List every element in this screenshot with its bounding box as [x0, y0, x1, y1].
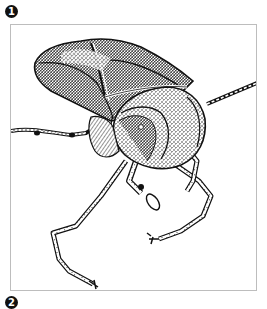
- figure-number-1: 1: [8, 6, 15, 17]
- rear-leg-left: [53, 161, 126, 289]
- figure-number-2: 2: [8, 297, 15, 308]
- illustration-frame: [10, 24, 257, 291]
- figure-number-badge-2: 2: [5, 296, 18, 309]
- left-leg: [11, 119, 101, 138]
- bug-body: [35, 39, 206, 169]
- figure-number-badge-1: 1: [5, 5, 18, 18]
- shield-bug-illustration: [10, 24, 257, 291]
- right-antenna: [207, 83, 257, 104]
